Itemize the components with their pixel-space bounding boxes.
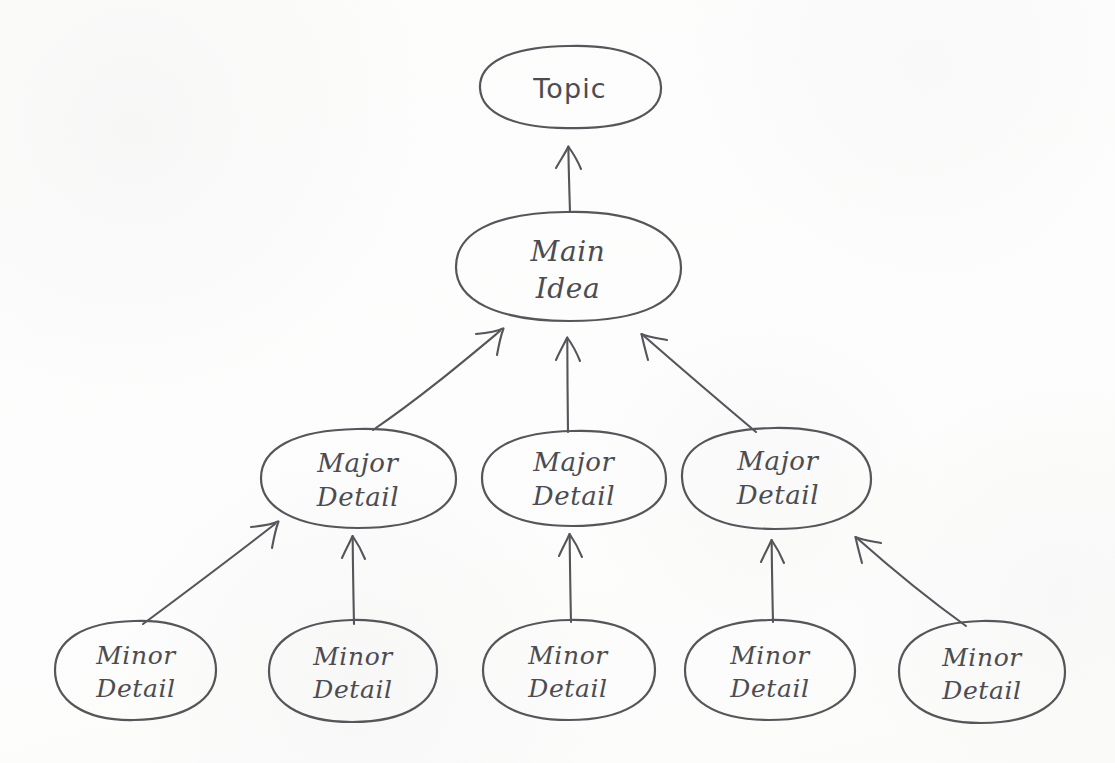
connector-line [772,542,773,622]
connector-line [373,331,500,430]
arrowhead-left-barb [342,536,353,558]
arrowhead-left-barb [556,147,568,169]
arrowhead-right-barb [570,534,582,557]
arrowhead-right-barb [353,536,365,559]
arrowhead-left-barb [556,338,567,361]
node-label-topic: Topic [532,73,606,104]
node-label-major1-line2: Detail [316,482,399,512]
arrowhead-left-barb [559,534,570,556]
node-label-minor5-line1: Minor [941,643,1023,672]
node-label-major1-line1: Major [316,448,399,478]
node-label-minor3-line2: Detail [527,674,607,703]
connector-line [644,336,756,432]
node-shape-minor1[interactable] [55,621,216,720]
connector-major1-to-main [373,329,504,431]
connector-line [567,340,568,432]
arrowhead-right-barb [772,540,784,563]
node-label-minor1-line2: Detail [95,674,175,703]
connector-main-to-topic [556,147,581,213]
arrowhead-right-barb [568,147,581,170]
node-label-minor2-line2: Detail [312,675,392,704]
node-label-minor1-line1: Minor [95,641,177,670]
connector-minor5-to-major3 [856,537,967,626]
node-shape-layer [55,46,1065,723]
arrowhead-left-barb [761,540,772,562]
connector-minor3-to-major2 [559,534,582,622]
node-shape-major2[interactable] [482,431,666,526]
node-label-minor2-line1: Minor [312,642,394,671]
connector-minor2-to-major1 [342,536,365,624]
connector-line [568,148,570,212]
node-shape-major3[interactable] [682,428,871,529]
node-label-major3-line1: Major [736,446,819,476]
connector-line [858,539,966,626]
connector-line [143,524,275,624]
node-label-minor4-line2: Detail [729,674,809,703]
node-label-major2-line1: Major [532,447,615,477]
node-label-main-line1: Main [530,235,606,268]
node-label-minor4-line1: Minor [729,641,811,670]
connector-layer [143,147,966,627]
arrowhead-right-barb [567,338,580,362]
node-label-major2-line2: Detail [532,481,615,511]
connector-major3-to-main [642,334,757,432]
connector-line [353,538,354,624]
node-label-main-line2: Idea [535,272,601,305]
connector-line [570,536,571,622]
node-label-layer: Topic Main Idea Major Detail Major Detai… [95,73,1023,705]
concept-map-canvas: Topic Main Idea Major Detail Major Detai… [0,0,1115,763]
connector-minor4-to-major3 [761,540,784,622]
node-label-major3-line2: Detail [736,480,819,510]
connector-major2-to-main [556,338,580,433]
concept-map-diagram: Topic Main Idea Major Detail Major Detai… [0,0,1115,763]
node-label-minor3-line1: Minor [527,641,609,670]
node-label-minor5-line2: Detail [941,676,1021,705]
connector-minor1-to-major1 [143,522,279,625]
node-shape-major1[interactable] [261,429,456,528]
